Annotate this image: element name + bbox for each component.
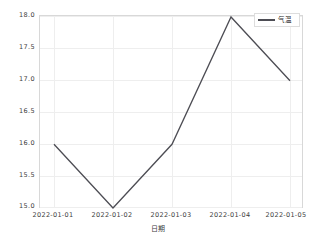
xtick-label-2022-01-02: 2022-01-02	[92, 212, 133, 219]
xtick-label-2022-01-01: 2022-01-01	[33, 212, 74, 219]
ytick-label-17.5: 17.5	[19, 44, 35, 51]
xtick-label-2022-01-03: 2022-01-03	[151, 212, 192, 219]
ytick-label-16.0: 16.0	[19, 140, 35, 147]
ytick-label-18.0: 18.0	[19, 12, 35, 19]
x-axis-label: 日期	[0, 226, 316, 233]
legend-line-swatch	[258, 19, 275, 21]
chart-figure: 气温 18.0 17.5 17.0 16.5 16.0 15.5 15.0 20…	[0, 0, 316, 248]
xtick-label-2022-01-05: 2022-01-05	[266, 212, 307, 219]
series-line-qiwen	[54, 17, 290, 208]
ytick-label-15.0: 15.0	[19, 203, 35, 210]
chart-legend: 气温	[254, 13, 300, 27]
ytick-label-17.0: 17.0	[19, 76, 35, 83]
plot-area	[39, 15, 303, 208]
ytick-label-15.5: 15.5	[19, 172, 35, 179]
ytick-label-16.5: 16.5	[19, 108, 35, 115]
legend-label-qiwen: 气温	[278, 17, 292, 24]
xtick-label-2022-01-04: 2022-01-04	[210, 212, 251, 219]
series-qiwen	[40, 16, 304, 209]
